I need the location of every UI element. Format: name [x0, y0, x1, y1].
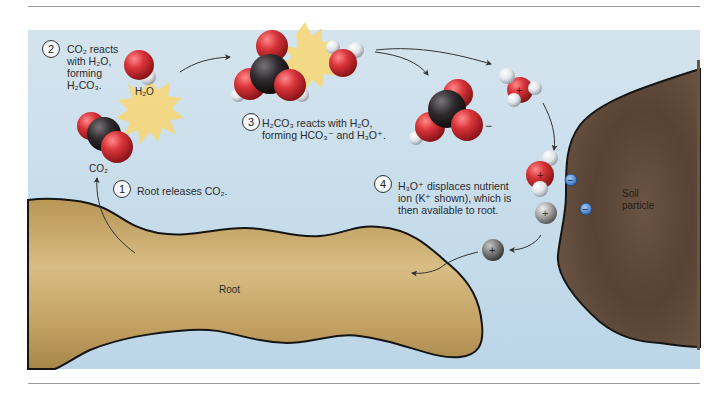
svg-text:+: +: [489, 244, 495, 256]
bicarbonate-charge: −: [485, 119, 492, 133]
svg-text:−: −: [568, 175, 574, 186]
svg-text:+: +: [537, 169, 543, 181]
svg-text:+: +: [516, 84, 522, 96]
co2-label: CO₂: [89, 163, 108, 174]
step-2-number: 2: [42, 40, 60, 58]
svg-text:+: +: [542, 207, 548, 219]
soil-negative-charge-2: −: [580, 203, 592, 215]
step-4-text: H₃O⁺ displaces nutrient ion (K⁺ shown), …: [398, 180, 511, 216]
water-label: H₂O: [135, 86, 154, 97]
step-2-text: CO₂ reacts with H₂O, forming H₂CO₃.: [67, 43, 118, 91]
svg-text:−: −: [583, 204, 589, 215]
step-3-text: H₂CO₃ reacts with H₂O, forming HCO₃⁻ and…: [262, 117, 386, 141]
soil-label: Soil particle: [622, 188, 654, 212]
potassium-ion-2: +: [482, 239, 504, 261]
root-label: Root: [219, 284, 240, 295]
soil-edge: [697, 60, 700, 350]
step-4-number: 4: [374, 175, 392, 193]
step-1-text: Root releases CO₂.: [137, 185, 227, 197]
soil-negative-charge-1: −: [565, 174, 577, 186]
step-3-number: 3: [242, 113, 260, 131]
step-1-number: 1: [113, 180, 131, 198]
potassium-ion-1: +: [535, 202, 557, 224]
